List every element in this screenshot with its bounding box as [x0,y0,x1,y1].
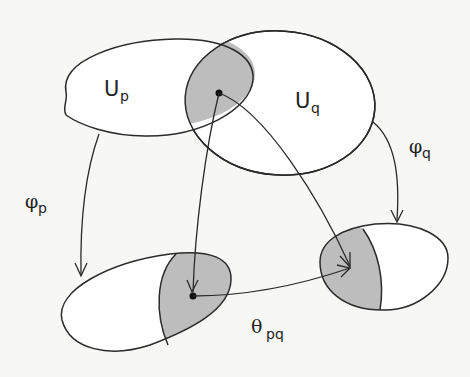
svg-text:φ: φ [409,135,422,157]
svg-text:p: p [120,88,129,104]
chart-image-p-overlap [159,250,240,348]
label-phi-p: φ p [25,190,47,216]
arrow-phi-p [81,134,99,275]
diagram-canvas: U p U q φ p φ q θ pq [0,0,470,377]
label-theta-pq: θ pq [251,315,284,342]
svg-text:pq: pq [266,326,284,342]
svg-text:φ: φ [25,190,38,212]
svg-text:θ: θ [251,315,262,337]
svg-text:U: U [295,89,310,113]
svg-text:q: q [311,100,320,116]
svg-text:q: q [422,145,431,161]
svg-text:p: p [38,200,47,216]
svg-text:U: U [104,77,119,101]
arrow-phi-q [373,122,398,220]
label-phi-q: φ q [409,135,431,161]
